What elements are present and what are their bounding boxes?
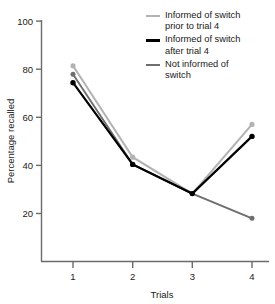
x-tick-label-1: 1 [70,271,75,282]
legend-swatch-light-gray-line [146,15,160,17]
x-tick-label-2: 2 [130,271,135,282]
x-axis-title: Trials [151,289,174,300]
series-line-not-informed [71,72,255,221]
legend-item-informed-prior: Informed of switch prior to trial 4 [146,10,274,32]
series-line-informed-after [70,80,254,196]
y-axis-ticks [36,21,42,213]
y-tick-label-100: 100 [17,16,33,27]
y-tick-label-80: 80 [22,64,33,75]
legend-swatch-black-line [146,39,160,42]
x-tick-label-3: 3 [190,271,195,282]
legend-swatch-gray-line [146,64,160,66]
legend-item-not-informed: Not informed of switch [146,59,274,81]
legend-item-informed-after: Informed of switch after trial 4 [146,34,274,56]
chart-legend: Informed of switch prior to trial 4 Info… [146,10,274,83]
x-axis-ticks [73,262,252,269]
legend-label-not-informed: Not informed of switch [165,59,229,81]
legend-label-informed-prior: Informed of switch prior to trial 4 [165,10,240,32]
y-tick-label-20: 20 [22,208,33,219]
x-tick-label-4: 4 [249,271,254,282]
y-axis-title: Percentage recalled [5,99,16,184]
y-tick-label-60: 60 [22,112,33,123]
y-tick-label-40: 40 [22,160,33,171]
line-chart-figure: 100 80 60 40 20 1 2 3 4 Trials Percentag… [0,0,275,304]
legend-label-informed-after: Informed of switch after trial 4 [165,34,240,56]
